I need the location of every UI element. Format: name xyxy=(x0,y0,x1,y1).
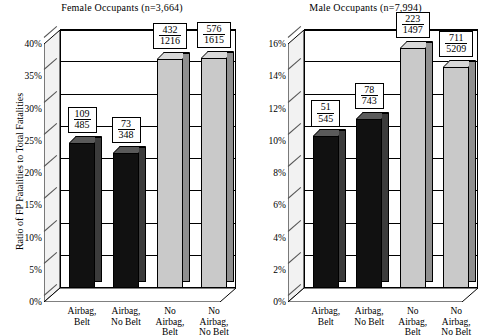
bar-side-face xyxy=(139,147,146,282)
y-axis-tick-label: 10% xyxy=(2,233,45,243)
bar-front-face xyxy=(157,59,183,288)
bar xyxy=(400,48,426,288)
callout-denominator: 5209 xyxy=(445,43,467,54)
category-label-line: No xyxy=(427,306,485,317)
y-axis-tick-label: 8% xyxy=(246,168,289,178)
y-axis-tick-mark xyxy=(44,284,57,296)
callout-denominator: 1216 xyxy=(159,35,181,46)
bar-front-face xyxy=(443,67,469,288)
y-axis-tick-label: 40% xyxy=(2,39,45,49)
data-callout: 2231497 xyxy=(396,12,430,38)
y-axis-tick-mark xyxy=(288,26,301,38)
category-label: NoAirbag,No Belt xyxy=(185,306,243,336)
bar-front-face xyxy=(201,58,227,288)
bar-front-face xyxy=(356,119,382,288)
y-axis-tick-mark xyxy=(288,252,301,264)
category-label-line: No Belt xyxy=(427,327,485,336)
category-labels-male: Airbag,BeltAirbag,No BeltNoAirbag,BeltNo… xyxy=(244,306,487,336)
callout-denominator: 348 xyxy=(118,129,135,140)
callout-numerator: 576 xyxy=(203,24,225,34)
y-axis-tick-mark xyxy=(288,58,301,70)
y-axis-tick-mark xyxy=(288,219,301,231)
chart-panel-male: Male Occupants (n=7,994) 0%2%4%6%8%10%12… xyxy=(244,0,487,336)
y-axis-tick-mark xyxy=(44,252,57,264)
y-axis-tick-label: 2% xyxy=(246,265,289,275)
chart-title-male: Male Occupants (n=7,994) xyxy=(244,2,487,13)
data-callout: 109485 xyxy=(68,107,97,133)
bar-side-face xyxy=(95,137,102,282)
y-axis-tick-mark xyxy=(44,123,57,135)
bar-front-face xyxy=(313,136,339,288)
callout-denominator: 1615 xyxy=(203,34,225,45)
y-axis-tick-label: 5% xyxy=(2,265,45,275)
y-axis-tick-label: 4% xyxy=(246,233,289,243)
y-axis-tick-mark xyxy=(288,155,301,167)
data-callout: 51545 xyxy=(311,100,340,126)
y-axis-tick-label: 12% xyxy=(246,104,289,114)
y-axis-tick-label: 25% xyxy=(2,136,45,146)
y-axis-tick-label: 6% xyxy=(246,200,289,210)
data-callout: 73348 xyxy=(112,117,141,143)
bar xyxy=(201,58,227,288)
data-callout: 5761615 xyxy=(197,22,231,48)
bar-side-face xyxy=(183,53,190,282)
callout-numerator: 711 xyxy=(445,33,467,43)
y-axis-tick-mark xyxy=(44,187,57,199)
callout-denominator: 743 xyxy=(361,95,378,106)
category-label-line: No xyxy=(185,306,243,317)
y-axis-tick-mark xyxy=(44,219,57,231)
callout-denominator: 485 xyxy=(74,119,91,130)
bar xyxy=(313,136,339,288)
bar xyxy=(443,67,469,288)
y-axis-tick-label: 15% xyxy=(2,200,45,210)
y-axis-tick-mark xyxy=(44,90,57,102)
category-label: NoAirbag,No Belt xyxy=(427,306,485,336)
bar-side-face xyxy=(382,113,389,282)
y-axis-tick-mark xyxy=(44,155,57,167)
y-axis-tick-mark xyxy=(288,90,301,102)
category-label-line: No Belt xyxy=(185,327,243,336)
callout-numerator: 51 xyxy=(317,102,334,112)
bars-female xyxy=(60,30,236,288)
bar xyxy=(356,119,382,288)
category-label-line: Airbag, xyxy=(185,317,243,328)
category-label-line: Airbag, xyxy=(427,317,485,328)
y-axis-tick-mark xyxy=(288,284,301,296)
bar xyxy=(113,153,139,288)
data-callout: 78743 xyxy=(355,83,384,109)
callout-numerator: 109 xyxy=(74,109,91,119)
bar xyxy=(157,59,183,288)
y-axis-tick-label: 30% xyxy=(2,104,45,114)
y-axis-tick-mark xyxy=(44,26,57,38)
callout-numerator: 73 xyxy=(118,119,135,129)
y-axis-tick-label: 20% xyxy=(2,168,45,178)
y-axis-tick-label: 10% xyxy=(246,136,289,146)
bar-side-face xyxy=(227,52,234,282)
bar-side-face xyxy=(469,61,476,282)
category-labels-female: Airbag,BeltAirbag,No BeltNoAirbag,BeltNo… xyxy=(0,306,244,336)
y-axis-tick-label: 16% xyxy=(246,39,289,49)
data-callout: 7115209 xyxy=(439,31,473,57)
chart-panel-female: Female Occupants (n=3,664) Ratio of FP F… xyxy=(0,0,244,336)
bar-side-face xyxy=(339,130,346,282)
y-axis-tick-mark xyxy=(288,123,301,135)
y-axis-tick-label: 14% xyxy=(246,71,289,81)
callout-numerator: 78 xyxy=(361,85,378,95)
bar-front-face xyxy=(400,48,426,288)
callout-numerator: 223 xyxy=(402,14,424,24)
data-callout: 4321216 xyxy=(153,23,187,49)
callout-numerator: 432 xyxy=(159,25,181,35)
chart-title-female: Female Occupants (n=3,664) xyxy=(0,2,244,13)
y-axis-tick-label: 35% xyxy=(2,71,45,81)
callout-denominator: 545 xyxy=(317,113,334,124)
bar-front-face xyxy=(69,143,95,288)
plot-area-male: 0%2%4%6%8%10%12%14%16% 51545787432231497… xyxy=(288,30,478,302)
bar-front-face xyxy=(113,153,139,288)
y-axis-tick-mark xyxy=(288,187,301,199)
bar xyxy=(69,143,95,288)
y-axis-tick-mark xyxy=(44,58,57,70)
bar-side-face xyxy=(426,42,433,282)
plot-area-female: 0%5%10%15%20%25%30%35%40% 10948573348432… xyxy=(44,30,236,302)
bars-male xyxy=(304,30,478,288)
callout-denominator: 1497 xyxy=(402,24,424,35)
